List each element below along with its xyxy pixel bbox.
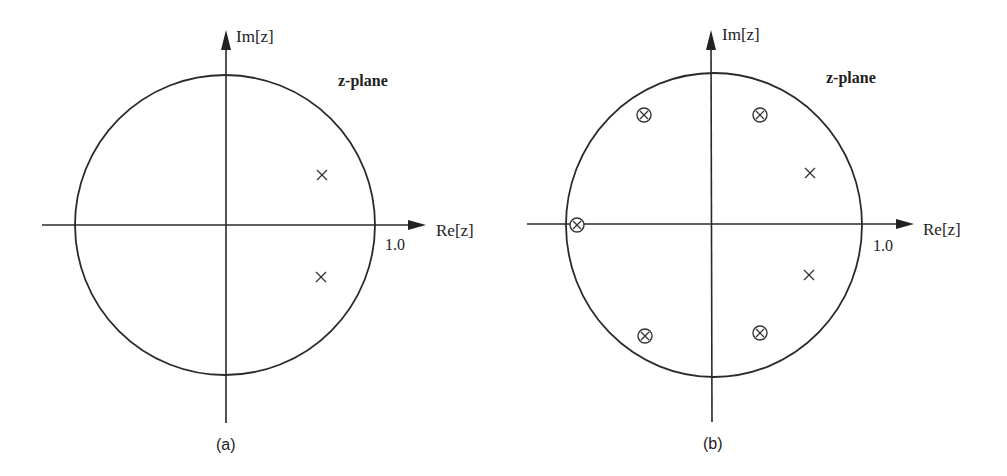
imag-axis-arrow-icon (706, 30, 716, 50)
unit-circle (566, 73, 862, 377)
real-axis-arrow-icon (408, 220, 426, 230)
zero-marker (753, 108, 767, 122)
pole-marker (804, 270, 814, 280)
real-axis-arrow-icon (896, 219, 914, 229)
pole-marker (316, 272, 326, 282)
real-axis-label: Re[z] (436, 221, 474, 240)
imag-axis-label: Im[z] (236, 27, 274, 46)
imag-axis-label: Im[z] (722, 25, 760, 44)
plane-label: z-plane (338, 72, 388, 90)
zero-marker (570, 218, 584, 232)
pole-marker (317, 170, 327, 180)
pole-zero-figure: Im[z] z-plane Re[z] 1.0 (a) (0, 0, 1007, 476)
plane-label: z-plane (826, 69, 876, 87)
zero-marker (637, 108, 651, 122)
zero-marker (753, 326, 767, 340)
zero-marker (638, 329, 652, 343)
panel-caption: (a) (216, 436, 236, 453)
pole-marker (805, 168, 815, 178)
unit-tick-label: 1.0 (873, 237, 893, 254)
unit-tick-label: 1.0 (385, 236, 405, 253)
real-axis-label: Re[z] (923, 220, 961, 239)
imag-axis-arrow-icon (221, 30, 231, 50)
panel-a: Im[z] z-plane Re[z] 1.0 (a) (42, 27, 474, 453)
panel-b: Im[z] z-plane Re[z] 1.0 (b) (527, 25, 961, 452)
imag-axis (711, 44, 712, 422)
panel-caption: (b) (703, 435, 723, 452)
